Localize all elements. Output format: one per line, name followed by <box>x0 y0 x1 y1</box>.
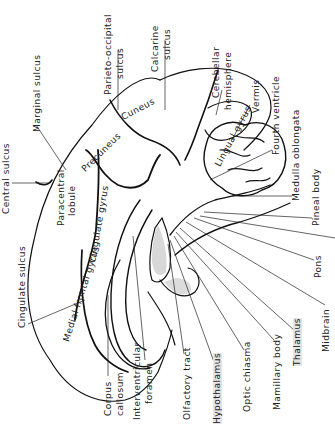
leader-pineal <box>204 212 312 218</box>
label-optic-chiasma: Optic chiasma <box>243 341 252 412</box>
label-midbrain: Midbrain <box>322 309 331 352</box>
label-central-sulcus: Central sulcus <box>2 143 11 214</box>
label-corpus-callosum-line1: Corpus <box>104 381 113 416</box>
label-parieto-occipital-sulcus-line1: Parieto-occipital <box>104 14 113 95</box>
label-pineal-body: Pineal body <box>312 168 321 226</box>
brain-diagram: Central sulcus Marginal sulcus Parieto-o… <box>0 0 335 432</box>
label-fourth-ventricle: Fourth ventricle <box>272 76 281 155</box>
label-hypothalamus: Hypothalamus <box>213 353 222 424</box>
label-cerebellar-hemisphere-line2: hemisphere <box>224 52 233 110</box>
leader-midbrain <box>186 222 325 305</box>
label-interventricular-foramen-line2: foramen <box>145 363 154 404</box>
label-cingulate-sulcus: Cingulate sulcus <box>18 246 27 328</box>
label-cerebellar-hemisphere-line1: Cerebellar <box>212 47 221 98</box>
label-pons: Pons <box>314 255 323 278</box>
region-paracentral-lobule-line2: lobule <box>68 186 77 216</box>
label-thalamus: Thalamus <box>293 318 302 366</box>
label-calcarine-sulcus-line2: sulcus <box>163 29 172 60</box>
label-parieto-occipital-sulcus-line2: sulcus <box>116 48 125 79</box>
brain-outline-drawing <box>0 0 335 432</box>
leader-mamillary <box>176 232 274 340</box>
label-mamillary-body: Mamillary body <box>273 334 282 410</box>
region-paracentral-lobule-line1: Paracentral <box>57 169 66 226</box>
leader-pons <box>194 218 314 260</box>
label-olfactory-tract: Olfactory tract <box>183 347 192 420</box>
label-marginal-sulcus: Marginal sulcus <box>33 55 42 132</box>
label-medulla-oblongata: Medulla oblongata <box>292 109 301 201</box>
label-vermis: Vermis <box>252 80 261 114</box>
label-interventricular-foramen-line1: Interventricular <box>133 342 142 420</box>
label-calcarine-sulcus-line1: Calcarine <box>151 25 160 72</box>
label-corpus-callosum-line2: callosum <box>116 372 125 416</box>
